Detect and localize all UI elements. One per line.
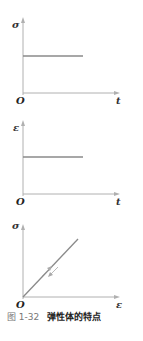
origin-label: O (16, 96, 25, 106)
x-axis-label: t (116, 96, 121, 106)
figure-number: 图 1-32 (7, 312, 39, 322)
strain-time-chart: ε O t (0, 110, 143, 215)
y-axis-arrow-icon (21, 120, 25, 126)
stress-strain-plot (0, 215, 143, 310)
y-axis-label: ε (13, 123, 19, 133)
y-axis-arrow-icon (21, 224, 25, 230)
figure-caption: 图 1-32弹性体的特点 (7, 313, 143, 322)
y-axis-arrow-icon (21, 17, 25, 23)
y-axis-label: σ (12, 221, 19, 231)
y-axis-label: σ (12, 20, 19, 30)
figure-title: 弹性体的特点 (47, 312, 101, 322)
origin-label: O (16, 300, 25, 310)
x-axis-label: t (116, 197, 121, 207)
origin-label: O (16, 197, 25, 207)
x-axis-label: ε (116, 300, 122, 310)
sigma-time-chart: σ O t (0, 0, 143, 105)
stress-strain-chart: σ O ε (0, 215, 143, 310)
sigma-time-plot (0, 0, 143, 105)
